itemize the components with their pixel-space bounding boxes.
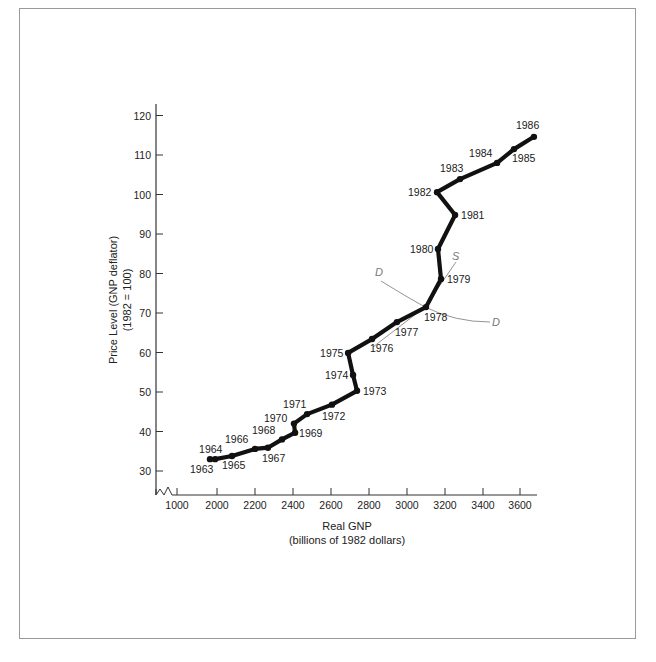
point-label: 1970: [264, 412, 288, 424]
data-point: [494, 160, 500, 166]
point-labels: 1963196419651966196719681969197019711972…: [190, 119, 539, 475]
point-label: 1979: [447, 273, 471, 285]
x-tick-label: 3600: [508, 499, 532, 511]
point-label: 1966: [225, 433, 249, 445]
point-label: 1964: [199, 443, 223, 455]
point-label: 1963: [190, 463, 214, 475]
point-label: 1981: [461, 209, 485, 221]
y-tick-label: 30: [139, 465, 151, 477]
point-label: 1971: [283, 398, 307, 410]
data-point: [394, 319, 400, 325]
y-tick-label: 120: [133, 110, 151, 122]
data-series: [207, 134, 537, 463]
point-label: 1980: [410, 243, 434, 255]
data-point: [345, 350, 351, 356]
point-label: 1984: [469, 147, 493, 159]
data-point: [252, 446, 258, 452]
y-tick-label: 40: [139, 426, 151, 438]
y-axis-title: Price Level (GNP deflator): [107, 236, 119, 364]
data-point: [434, 189, 440, 195]
point-label: 1977: [395, 326, 419, 338]
x-tick-label: 3400: [471, 499, 495, 511]
data-point: [452, 212, 458, 218]
x-axis-subtitle: (billions of 1982 dollars): [289, 534, 405, 546]
point-label: 1973: [363, 385, 387, 397]
data-point: [457, 176, 463, 182]
axes: 3040506070809010011012010002000220024002…: [133, 104, 537, 511]
y-tick-label: 90: [139, 228, 151, 240]
data-point: [531, 134, 537, 140]
data-point: [329, 401, 335, 407]
x-tick-label: 3200: [433, 499, 457, 511]
chart: 3040506070809010011012010002000220024002…: [0, 0, 656, 662]
y-tick-label: 100: [133, 189, 151, 201]
y-axis-subtitle: (1982 = 100): [121, 269, 133, 332]
y-tick-label: 80: [139, 268, 151, 280]
point-label: 1985: [512, 152, 536, 164]
y-tick-label: 70: [139, 307, 151, 319]
supply-demand-curves: [373, 262, 490, 347]
y-tick-label: 60: [139, 347, 151, 359]
data-point: [435, 246, 441, 252]
data-point: [423, 304, 429, 310]
point-label: 1968: [252, 424, 276, 436]
y-tick-label: 50: [139, 386, 151, 398]
x-tick-label: 2600: [319, 499, 343, 511]
data-point: [292, 429, 298, 435]
data-point: [350, 372, 356, 378]
point-label: 1982: [408, 186, 432, 198]
point-label: 1975: [320, 347, 344, 359]
point-label: 1972: [322, 410, 346, 422]
data-point: [291, 420, 297, 426]
data-point: [438, 276, 444, 282]
point-label: 1969: [299, 427, 323, 439]
x-tick-label: 1000: [165, 499, 189, 511]
point-label: 1976: [370, 342, 394, 354]
data-point: [354, 388, 360, 394]
demand-label-right: D: [492, 316, 500, 328]
data-point: [279, 436, 285, 442]
series-line: [210, 137, 534, 459]
x-tick-label: 2800: [357, 499, 381, 511]
x-tick-label: 2200: [243, 499, 267, 511]
point-label: 1965: [222, 459, 246, 471]
point-label: 1974: [325, 369, 349, 381]
point-label: 1978: [424, 311, 448, 323]
point-label: 1967: [262, 452, 286, 464]
supply-label: S: [452, 250, 460, 262]
x-tick-label: 3000: [395, 499, 419, 511]
data-point: [212, 456, 218, 462]
x-axis-title: Real GNP: [322, 520, 372, 532]
x-tick-label: 2400: [281, 499, 305, 511]
demand-label-left: D: [375, 266, 383, 278]
axis-break-icon: [156, 487, 174, 495]
y-tick-label: 110: [134, 149, 151, 161]
data-point: [265, 444, 271, 450]
data-point: [304, 411, 310, 417]
point-label: 1986: [516, 119, 540, 131]
point-label: 1983: [440, 162, 464, 174]
x-tick-label: 2000: [205, 499, 229, 511]
